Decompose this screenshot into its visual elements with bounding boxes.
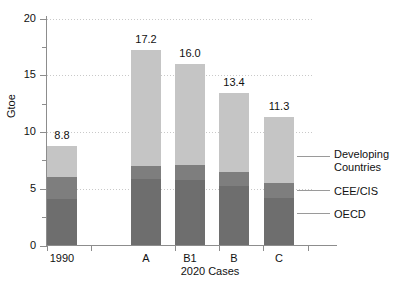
bar-segment-oecd <box>131 179 161 246</box>
bar-segment-cee-cis <box>131 166 161 178</box>
y-tick <box>40 246 46 247</box>
y-tick-minor <box>42 47 46 48</box>
bar-segment-developing-countries <box>219 93 249 171</box>
bar-segment-oecd <box>219 186 249 245</box>
bar-segment-developing-countries <box>47 146 77 178</box>
x-tick <box>91 246 92 251</box>
y-tick-label: 10 <box>2 126 36 137</box>
bar-segment-oecd <box>175 180 205 246</box>
bar-c <box>264 0 294 284</box>
x-tick-label-c: C <box>257 252 301 264</box>
bar-value-label: 8.8 <box>42 130 82 141</box>
bar-segment-cee-cis <box>219 172 249 187</box>
x-tick <box>47 246 48 251</box>
y-axis-title: Gtoe <box>6 94 17 118</box>
x-axis-title: 2020 Cases <box>150 266 270 277</box>
bar-segment-oecd <box>47 199 77 246</box>
stacked-bar-chart: Gtoe 2020 Cases 05101520 8.817.216.013.4… <box>0 0 397 284</box>
legend-leader-line <box>297 190 330 191</box>
bar-segment-oecd <box>264 198 294 246</box>
y-tick-label: 15 <box>2 69 36 80</box>
x-tick-label-b1: B1 <box>168 252 212 264</box>
y-tick-minor <box>42 160 46 161</box>
bar-value-label: 16.0 <box>170 48 210 59</box>
bar-segment-cee-cis <box>264 183 294 198</box>
x-tick <box>308 246 309 251</box>
x-tick <box>263 246 264 251</box>
bar-value-label: 13.4 <box>214 77 254 88</box>
x-tick-label-1990: 1990 <box>40 252 84 264</box>
bar-segment-cee-cis <box>175 165 205 180</box>
y-tick-label: 0 <box>2 240 36 251</box>
y-tick <box>40 75 46 76</box>
bar-segment-developing-countries <box>175 64 205 165</box>
y-tick <box>40 19 46 20</box>
legend-leader-line <box>297 156 330 157</box>
bar-1990 <box>47 0 77 284</box>
x-tick-label-a: A <box>124 252 168 264</box>
bar-b1 <box>175 0 205 284</box>
bar-value-label: 11.3 <box>259 101 299 112</box>
y-tick-minor <box>42 217 46 218</box>
bar-segment-developing-countries <box>264 117 294 183</box>
bar-segment-developing-countries <box>131 50 161 166</box>
y-tick-minor <box>42 104 46 105</box>
y-tick-label: 20 <box>2 13 36 24</box>
x-tick <box>175 246 176 251</box>
bar-value-label: 17.2 <box>126 34 166 45</box>
legend-label-developing: Developing Countries <box>334 148 389 174</box>
y-tick-label: 5 <box>2 183 36 194</box>
y-tick <box>40 189 46 190</box>
bar-segment-cee-cis <box>47 177 77 199</box>
x-tick <box>219 246 220 251</box>
legend-leader-line <box>297 213 330 214</box>
legend-label-cee-cis: CEE/CIS <box>334 185 378 198</box>
x-tick-label-b: B <box>212 252 256 264</box>
legend-label-oecd: OECD <box>334 208 366 221</box>
bar-b <box>219 0 249 284</box>
